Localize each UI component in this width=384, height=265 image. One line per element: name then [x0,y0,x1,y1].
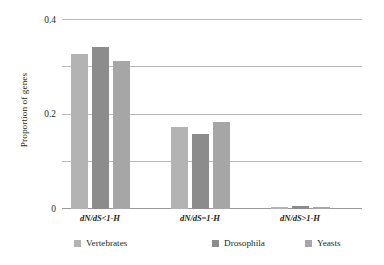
legend-label: Drosophila [224,239,265,248]
bar [92,47,109,209]
plot-area: 00.20.40.60.8dN/dS<1-HdN/dS=1-HdN/dS>1-H [62,20,362,209]
chart-legend: VertebratesDrosophilaYeasts [62,239,362,255]
legend-item[interactable]: Vertebrates [74,239,127,248]
bar [313,207,330,209]
x-axis-category-label: dN/dS<1-H [80,213,120,223]
bar-chart: Proportion of genes 00.20.40.60.8dN/dS<1… [0,0,384,265]
y-tick-label: 0.2 [44,110,56,119]
bar [71,54,88,209]
legend-swatch-icon [74,240,81,247]
legend-label: Yeasts [317,239,341,248]
y-axis-title: Proportion of genes [19,45,29,175]
bar [271,207,288,209]
y-tick-label: 0.4 [44,15,56,24]
bar [171,127,188,209]
bar [213,122,230,209]
bar [192,134,209,209]
legend-swatch-icon [212,240,219,247]
legend-swatch-icon [305,240,312,247]
bar [292,206,309,209]
legend-item[interactable]: Drosophila [212,239,265,248]
y-tick-label: 0 [51,204,56,213]
bar [113,61,130,209]
x-axis-category-label: dN/dS>1-H [280,213,320,223]
legend-label: Vertebrates [86,239,127,248]
x-axis-category-label: dN/dS=1-H [180,213,220,223]
legend-item[interactable]: Yeasts [305,239,341,248]
gridline-0.8: 0.8 [62,19,362,20]
